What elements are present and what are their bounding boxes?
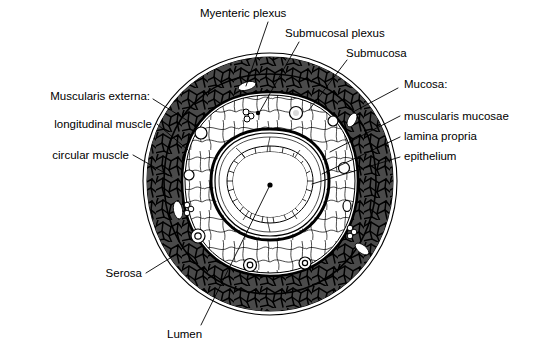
label-muscularis-externa-heading: Muscularis externa: [50, 90, 150, 102]
label-mucosa-heading: Mucosa: [404, 78, 447, 90]
label-circular-muscle: circular muscle [52, 149, 129, 161]
lumen-leader-dot [267, 182, 272, 187]
label-submucosa: Submucosa [346, 47, 407, 59]
figure-page: Myenteric plexus Submucosal plexus Submu… [0, 0, 537, 348]
label-myenteric-plexus: Myenteric plexus [200, 7, 287, 19]
label-lumen: Lumen [167, 328, 202, 340]
label-submucosal-plexus: Submucosal plexus [285, 27, 385, 39]
label-muscularis-mucosae: muscularis mucosae [404, 110, 509, 122]
gi-tract-cross-section-figure: Myenteric plexus Submucosal plexus Submu… [0, 0, 537, 348]
label-lamina-propria: lamina propria [404, 130, 477, 142]
label-longitudinal-muscle: longitudinal muscle [54, 118, 152, 130]
label-serosa: Serosa [106, 267, 143, 279]
label-epithelium: epithelium [404, 150, 456, 162]
